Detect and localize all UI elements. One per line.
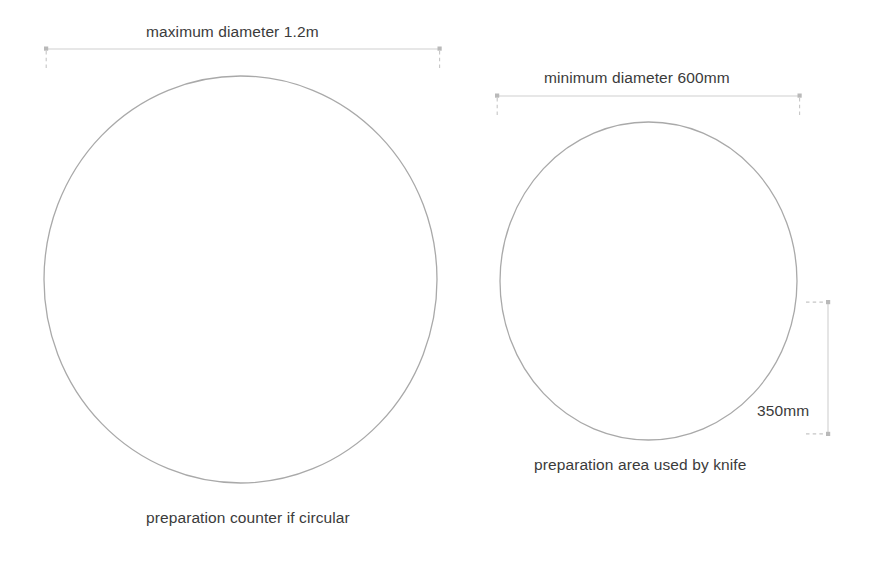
technical-drawing-canvas: maximum diameter 1.2m minimum diameter 6…	[0, 0, 870, 574]
dimension-drawing-svg	[0, 0, 870, 574]
small-circle-caption: preparation area used by knife	[534, 457, 746, 473]
large-circle-caption: preparation counter if circular	[146, 510, 350, 526]
min-diameter-left-endpoint-dot	[495, 94, 499, 98]
max-diameter-label: maximum diameter 1.2m	[146, 24, 319, 40]
knife-depth-top-endpoint-dot	[826, 300, 830, 304]
min-diameter-right-endpoint-dot	[798, 94, 802, 98]
small-circle-outline	[500, 122, 797, 440]
large-circle-outline	[44, 76, 437, 483]
knife-depth-label: 350mm	[757, 403, 809, 419]
max-diameter-right-endpoint-dot	[438, 47, 442, 51]
min-diameter-label: minimum diameter 600mm	[544, 70, 730, 86]
max-diameter-left-endpoint-dot	[44, 47, 48, 51]
knife-depth-bottom-endpoint-dot	[826, 432, 830, 436]
